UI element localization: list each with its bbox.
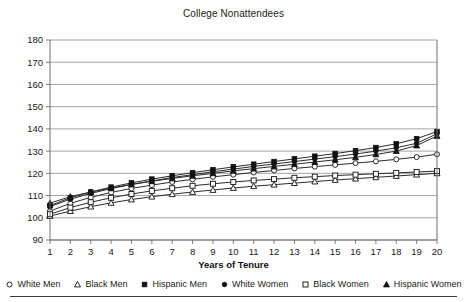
legend-label: Black Men [85,279,127,289]
chart-legend: White MenBlack MenHispanic MenWhite Wome… [0,279,467,289]
open-square-icon [301,280,310,289]
svg-text:5: 5 [129,246,134,257]
data-series-layer [47,129,440,218]
svg-text:2: 2 [68,246,73,257]
svg-text:130: 130 [27,146,43,157]
svg-text:7: 7 [170,246,175,257]
svg-text:9: 9 [210,246,215,257]
open-triangle-icon [73,280,82,289]
svg-text:4: 4 [108,246,113,257]
chart-container: College Nonattendees 9010011012013014015… [0,0,467,302]
svg-text:180: 180 [27,34,43,45]
svg-text:90: 90 [32,234,43,245]
svg-text:10: 10 [228,246,239,257]
series-black-women [48,169,440,217]
line-chart-plot: 90100110120130140150160170180 1234567891… [0,0,467,302]
legend-label: White Women [232,279,288,289]
legend-divider [10,296,457,297]
legend-item-black-men: Black Men [73,279,127,289]
svg-text:150: 150 [27,101,43,112]
x-axis-ticks [50,240,437,244]
legend-label: Hispanic Women [394,279,462,289]
svg-text:170: 170 [27,57,43,68]
legend-label: Hispanic Men [152,279,207,289]
series-white-men [48,152,440,214]
svg-text:12: 12 [269,246,280,257]
svg-text:11: 11 [249,246,259,257]
legend-label: Black Women [313,279,368,289]
series-hispanic-women [47,133,440,206]
svg-text:20: 20 [432,246,443,257]
gridlines [46,40,437,240]
svg-text:17: 17 [371,246,382,257]
filled-square-icon [140,280,149,289]
svg-text:100: 100 [27,212,43,223]
svg-text:6: 6 [149,246,154,257]
y-axis-tick-labels: 90100110120130140150160170180 [27,34,43,245]
svg-text:160: 160 [27,79,43,90]
filled-circle-icon [220,280,229,289]
svg-text:18: 18 [391,246,402,257]
svg-text:1: 1 [47,246,52,257]
filled-triangle-icon [382,280,391,289]
open-circle-icon [5,280,14,289]
x-axis-tick-labels: 1234567891011121314151617181920 [47,246,442,257]
svg-text:15: 15 [330,246,341,257]
legend-label: White Men [17,279,60,289]
series-hispanic-men [48,129,440,208]
x-axis-label: Years of Tenure [0,259,467,270]
legend-item-black-women: Black Women [301,279,368,289]
series-black-men [47,170,440,218]
svg-text:19: 19 [411,246,422,257]
plot-frame [50,40,437,240]
svg-text:14: 14 [310,246,321,257]
legend-item-white-men: White Men [5,279,60,289]
legend-item-hispanic-men: Hispanic Men [140,279,207,289]
svg-text:13: 13 [289,246,300,257]
svg-text:3: 3 [88,246,93,257]
svg-text:110: 110 [28,190,43,201]
svg-text:8: 8 [190,246,195,257]
svg-text:120: 120 [27,168,43,179]
svg-text:16: 16 [350,246,361,257]
legend-item-white-women: White Women [220,279,288,289]
svg-text:140: 140 [27,123,43,134]
legend-item-hispanic-women: Hispanic Women [382,279,462,289]
